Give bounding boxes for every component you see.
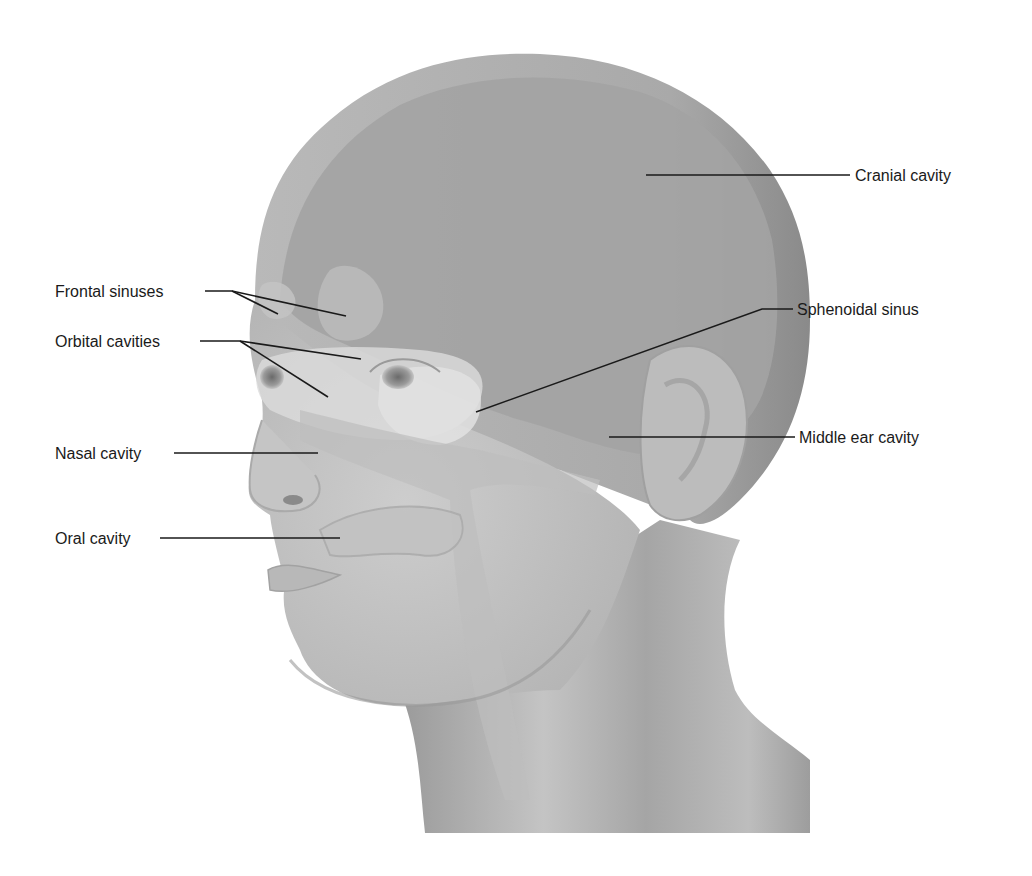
label-cranial-cavity: Cranial cavity [855,167,951,185]
label-oral-cavity: Oral cavity [55,530,131,548]
left-eye [260,365,284,389]
nostril [283,495,303,505]
label-orbital-cavities: Orbital cavities [55,333,160,351]
label-sphenoidal-sinus: Sphenoidal sinus [797,301,919,319]
label-middle-ear-cavity: Middle ear cavity [799,429,919,447]
right-eye [382,365,414,389]
label-nasal-cavity: Nasal cavity [55,445,141,463]
label-frontal-sinuses: Frontal sinuses [55,283,164,301]
